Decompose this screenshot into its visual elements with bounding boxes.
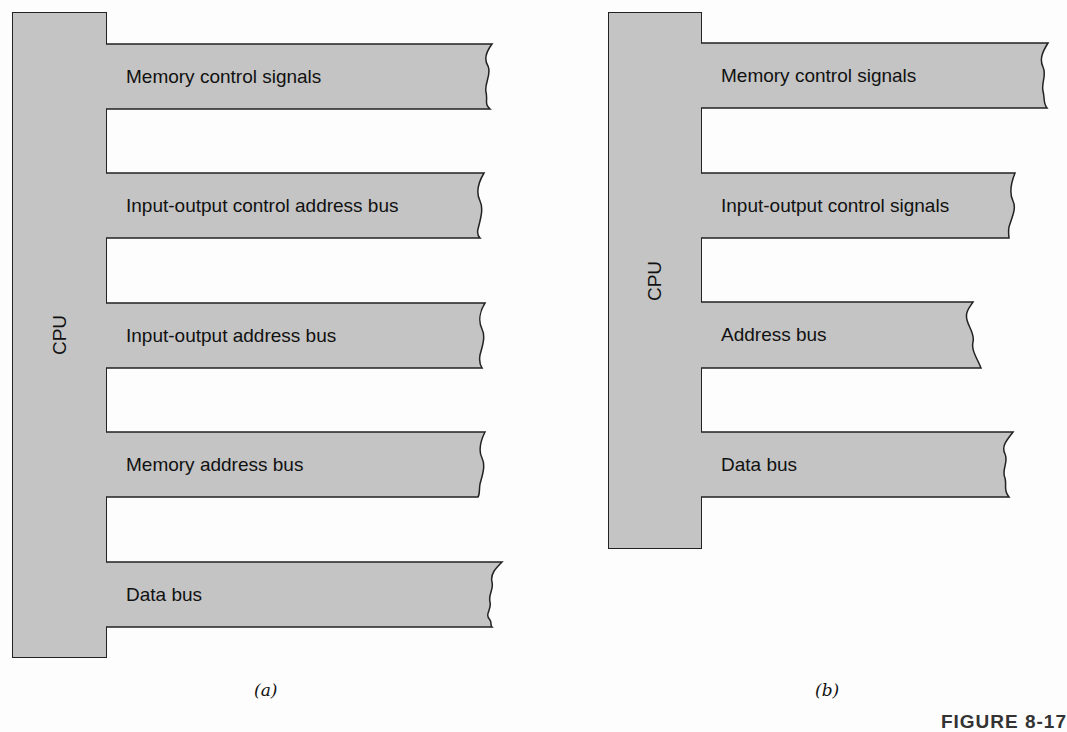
- bus-label: Data bus: [721, 454, 797, 476]
- bus-label: Address bus: [721, 324, 827, 346]
- bus-io-address-a: Input-output address bus: [106, 303, 496, 368]
- bus-memory-control-b: Memory control signals: [701, 43, 1051, 108]
- bus-label: Data bus: [126, 584, 202, 606]
- bus-memory-address-a: Memory address bus: [106, 432, 496, 497]
- bus-label: Input-output control address bus: [126, 195, 399, 217]
- cpu-label-b: CPU: [644, 260, 666, 300]
- bus-memory-control-a: Memory control signals: [106, 44, 496, 109]
- bus-label: Memory address bus: [126, 454, 303, 476]
- cpu-label-a: CPU: [49, 315, 71, 355]
- cpu-block-b: CPU: [608, 12, 702, 549]
- figure-number: FIGURE 8-17: [941, 711, 1067, 732]
- bus-io-control-b: Input-output control signals: [701, 173, 1021, 238]
- bus-data-b: Data bus: [701, 432, 1021, 497]
- bus-label: Input-output control signals: [721, 195, 949, 217]
- caption-b: (b): [815, 680, 839, 700]
- bus-data-a: Data bus: [106, 562, 506, 627]
- cpu-block-a: CPU: [12, 12, 107, 658]
- caption-a: (a): [254, 680, 277, 700]
- bus-address-b: Address bus: [701, 302, 986, 367]
- bus-label: Memory control signals: [721, 65, 916, 87]
- bus-label: Input-output address bus: [126, 325, 336, 347]
- bus-io-control-address-a: Input-output control address bus: [106, 173, 496, 238]
- bus-label: Memory control signals: [126, 66, 321, 88]
